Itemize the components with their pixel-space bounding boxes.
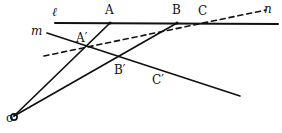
line-l	[55, 23, 278, 24]
point-a	[108, 21, 111, 24]
label-n: n	[264, 3, 272, 15]
geometry-diagram: ℓABCnmA′B′C′o	[0, 0, 282, 133]
label-Bprime: B′	[114, 64, 126, 76]
label-Aprime: A′	[76, 32, 87, 44]
diagram-canvas	[0, 0, 282, 133]
point-b	[175, 21, 178, 24]
label-O: o	[6, 112, 13, 124]
label-Cprime: C′	[152, 74, 164, 86]
label-C: C	[198, 5, 207, 17]
label-l: ℓ	[52, 6, 57, 18]
label-A: A	[105, 4, 114, 16]
label-m: m	[31, 25, 42, 37]
segments-layer	[14, 10, 278, 116]
label-B: B	[172, 4, 181, 16]
